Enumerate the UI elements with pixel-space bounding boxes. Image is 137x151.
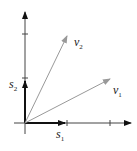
vector-diagram <box>0 0 137 151</box>
label-v1: v1 <box>113 84 122 99</box>
vector-v1 <box>25 79 110 123</box>
vector-v2 <box>25 36 67 123</box>
label-s1: s1 <box>56 128 64 143</box>
label-v2: v2 <box>74 36 83 51</box>
label-s2: s2 <box>9 78 17 93</box>
